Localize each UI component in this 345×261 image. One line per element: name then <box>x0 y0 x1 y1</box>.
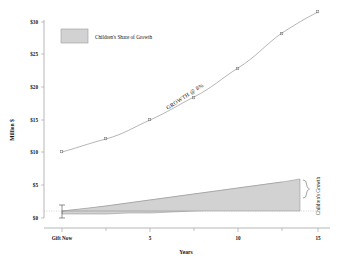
y-tick-label-25: $25 <box>30 51 38 57</box>
y-tick-label-15: $15 <box>30 117 38 123</box>
x-tick-label-5: 5 <box>149 235 152 241</box>
childrens-growth-label: Children's Growth <box>315 176 321 215</box>
growth-curve <box>62 12 318 152</box>
y-axis-title: Million $ <box>9 119 15 141</box>
legend-swatch-childrens-share <box>61 29 88 43</box>
y-tick-label-0: $0 <box>33 215 39 221</box>
childrens-share-wedge-fill <box>62 179 300 211</box>
x-tick-label-10: 10 <box>235 235 241 241</box>
x-tick-label-gift-now: Gift Now <box>52 235 73 241</box>
growth-line-series <box>61 11 319 153</box>
childrens-share-area-series <box>62 179 300 214</box>
growth-rate-label: GROWTH @ 8% <box>165 82 205 111</box>
growth-area-chart: $0 $5 $10 $15 $20 $25 $30 Million $ Gift… <box>0 0 345 261</box>
x-tick-label-15: 15 <box>315 235 321 241</box>
childrens-growth-brace <box>303 180 310 198</box>
y-tick-label-5: $5 <box>33 182 39 188</box>
x-axis: Gift Now 5 10 15 Years <box>44 228 330 255</box>
y-tick-label-20: $20 <box>30 84 38 90</box>
legend: Children's Share of Growth <box>61 29 152 43</box>
x-axis-title: Years <box>179 249 193 255</box>
y-tick-label-10: $10 <box>30 149 38 155</box>
legend-label-childrens-share: Children's Share of Growth <box>95 34 152 40</box>
y-axis: $0 $5 $10 $15 $20 $25 $30 Million $ <box>9 19 44 221</box>
y-tick-label-30: $30 <box>30 19 38 25</box>
chart-container: $0 $5 $10 $15 $20 $25 $30 Million $ Gift… <box>0 0 345 261</box>
